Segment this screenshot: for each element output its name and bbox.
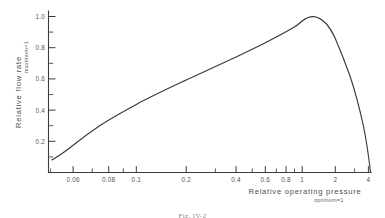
x-axis-ticks (51, 166, 369, 172)
figure-container: 1.0 0.8 0.6 0.4 0.2 (0, 0, 385, 218)
y-tick-label: 0.8 (36, 44, 46, 51)
y-axis-title-group: Relative flow rate maximum=1 (14, 41, 29, 128)
x-tick-label: 0.06 (66, 176, 79, 183)
x-tick-label: 2 (333, 176, 337, 183)
y-axis-title: Relative flow rate (14, 56, 23, 128)
y-axis-tick-labels: 1.0 0.8 0.6 0.4 0.2 (36, 13, 46, 145)
x-tick-label: 0.1 (132, 176, 142, 183)
x-tick-label: 0.8 (281, 176, 291, 183)
x-axis-tick-labels: 0.06 0.08 0.1 0.2 0.4 0.6 0.8 1 2 4 (66, 176, 370, 183)
x-tick-label: 1 (300, 176, 304, 183)
data-curve (52, 17, 371, 172)
x-axis-title-group: Relative operating pressure optimum=1 (248, 187, 361, 203)
chart-plot: 1.0 0.8 0.6 0.4 0.2 (0, 0, 385, 218)
y-axis-subtitle: maximum=1 (23, 41, 29, 73)
figure-caption: Fig. IV-2 (0, 211, 385, 218)
y-tick-label: 1.0 (36, 13, 46, 20)
x-tick-label: 4 (367, 176, 371, 183)
x-tick-label: 0.6 (261, 176, 271, 183)
y-tick-label: 0.2 (36, 138, 46, 145)
x-tick-label: 0.4 (231, 176, 241, 183)
x-tick-label: 0.08 (102, 176, 115, 183)
x-axis-title: Relative operating pressure (248, 187, 361, 196)
x-tick-label: 0.2 (181, 176, 191, 183)
x-axis-subtitle: optimum=1 (314, 197, 344, 203)
y-axis-ticks (49, 17, 56, 157)
y-tick-label: 0.6 (36, 75, 46, 82)
y-tick-label: 0.4 (36, 107, 46, 114)
axis-lines (49, 11, 372, 173)
